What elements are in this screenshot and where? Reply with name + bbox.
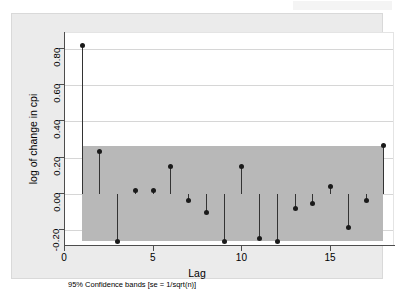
data-point-marker (151, 188, 156, 193)
x-tick-mark (64, 246, 65, 251)
x-tick-label: 0 (49, 252, 79, 263)
chart-note: 95% Confidence bands [se = 1/sqrt(n)] (68, 280, 196, 289)
figure-canvas: log of change in cpi -0.200.000.200.400.… (0, 0, 395, 289)
autocorrelation-stem (383, 146, 384, 194)
autocorrelation-stem (277, 194, 278, 242)
x-tick-mark (330, 246, 331, 251)
autocorrelation-stem (170, 167, 171, 194)
autocorrelation-stem (224, 194, 225, 242)
data-point-marker (346, 225, 351, 230)
y-tick-label: 0.00 (51, 192, 62, 211)
y-tick-label: 0.20 (51, 156, 62, 175)
x-tick-mark (153, 246, 154, 251)
y-axis-line (64, 32, 65, 246)
data-point-marker (222, 239, 227, 244)
data-point-marker (80, 43, 85, 48)
x-axis-title: Lag (12, 267, 382, 279)
watermark-text (293, 1, 392, 10)
gridline (64, 85, 393, 86)
autocorrelation-stem (348, 194, 349, 227)
autocorrelation-stem (117, 194, 118, 242)
x-tick-label: 15 (315, 252, 345, 263)
x-tick-label: 10 (226, 252, 256, 263)
gridline (64, 121, 393, 122)
gridline (64, 49, 393, 50)
x-tick-label: 5 (138, 252, 168, 263)
graph-outer-region: log of change in cpi -0.200.000.200.400.… (11, 13, 383, 279)
autocorrelation-stem (99, 151, 100, 193)
confidence-band (82, 146, 384, 242)
data-point-marker (115, 239, 120, 244)
y-tick-label: -0.20 (51, 228, 62, 251)
data-point-marker (381, 143, 386, 148)
y-tick-label: 0.40 (51, 120, 62, 139)
x-tick-mark (241, 246, 242, 251)
autocorrelation-stem (82, 46, 83, 194)
data-point-marker (204, 210, 209, 215)
y-axis-title: log of change in cpi (27, 94, 39, 184)
y-tick-label: 0.60 (51, 84, 62, 103)
x-axis-line (64, 245, 395, 246)
autocorrelation-stem (241, 167, 242, 194)
data-point-marker (275, 239, 280, 244)
plot-region (64, 32, 394, 245)
y-tick-label: 0.80 (51, 48, 62, 67)
autocorrelation-stem (259, 194, 260, 239)
